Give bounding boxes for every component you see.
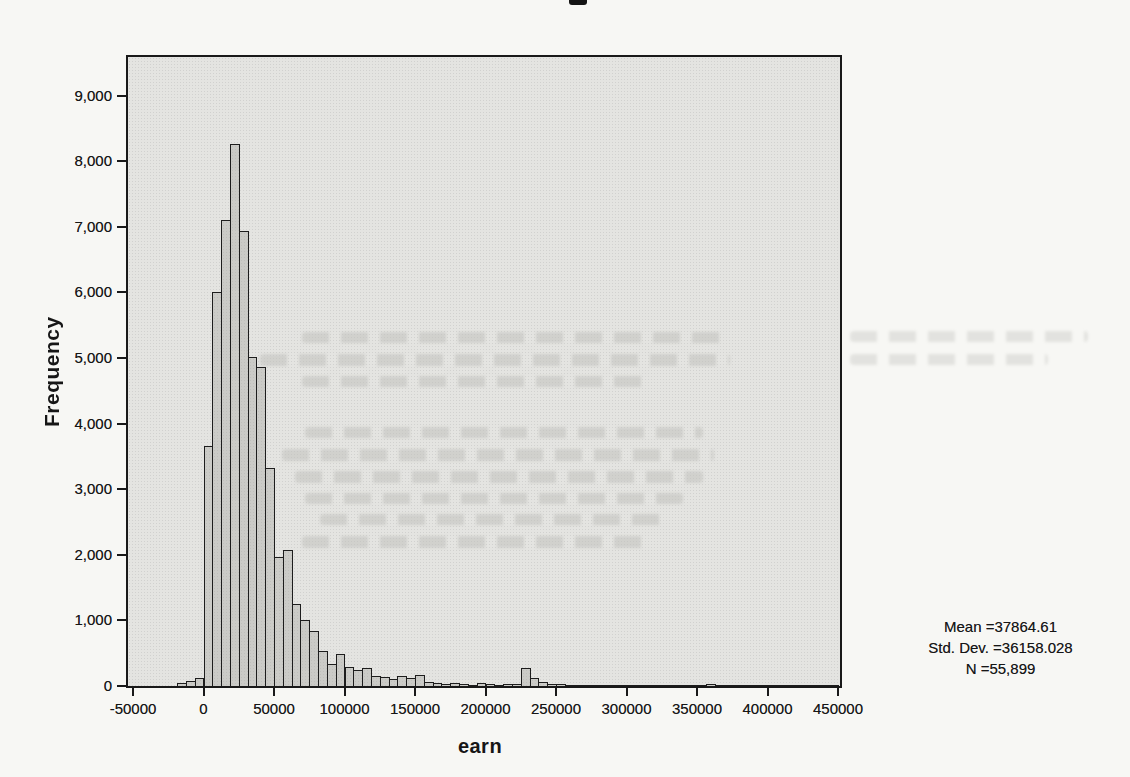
scanned-histogram-page: Frequency 01,0002,0003,0004,0005,0006,00… (0, 0, 1130, 777)
y-tick (117, 554, 126, 556)
x-tick (344, 688, 346, 696)
y-tick (117, 357, 126, 359)
stat-n: N =55,899 (878, 658, 1123, 679)
y-tick (117, 95, 126, 97)
x-tick (555, 688, 557, 696)
x-tick-label: 50000 (239, 700, 309, 718)
y-tick (117, 160, 126, 162)
x-tick (273, 688, 275, 696)
x-tick-label: 250000 (521, 700, 591, 718)
y-tick-label: 9,000 (40, 87, 112, 105)
y-tick-label: 0 (40, 677, 112, 695)
y-tick (117, 619, 126, 621)
x-tick-label: 200000 (451, 700, 521, 718)
x-tick (696, 688, 698, 696)
x-tick-label: 450000 (803, 700, 873, 718)
stats-annotation: Mean =37864.61 Std. Dev. =36158.028 N =5… (878, 616, 1123, 679)
y-tick-label: 7,000 (40, 218, 112, 236)
y-tick (117, 423, 126, 425)
x-tick (837, 688, 839, 696)
x-tick-label: 0 (169, 700, 239, 718)
stat-std-dev: Std. Dev. =36158.028 (878, 637, 1123, 658)
x-axis-title: earn (390, 735, 570, 758)
x-tick (626, 688, 628, 696)
x-tick-label: 150000 (380, 700, 450, 718)
y-tick-label: 1,000 (40, 611, 112, 629)
x-tick (132, 688, 134, 696)
y-tick-label: 4,000 (40, 415, 112, 433)
y-tick-label: 8,000 (40, 152, 112, 170)
y-tick (117, 291, 126, 293)
y-tick (117, 488, 126, 490)
x-tick-label: 100000 (310, 700, 380, 718)
x-tick-label: 300000 (592, 700, 662, 718)
histogram-bars (128, 57, 840, 686)
x-tick (414, 688, 416, 696)
bleed-through-text (850, 354, 1048, 365)
stat-mean: Mean =37864.61 (878, 616, 1123, 637)
y-tick-label: 6,000 (40, 283, 112, 301)
y-tick (117, 685, 126, 687)
x-tick-label: 400000 (733, 700, 803, 718)
y-tick-label: 2,000 (40, 546, 112, 564)
cropped-text-fragment (569, 0, 587, 5)
bleed-through-text (850, 331, 1088, 342)
y-tick (117, 226, 126, 228)
y-tick-label: 5,000 (40, 349, 112, 367)
plot-area (126, 55, 842, 688)
y-tick-label: 3,000 (40, 480, 112, 498)
histogram-bar (829, 685, 839, 686)
x-tick-label: 350000 (662, 700, 732, 718)
x-tick-label: -50000 (98, 700, 168, 718)
x-tick (203, 688, 205, 696)
x-tick (485, 688, 487, 696)
x-tick (767, 688, 769, 696)
